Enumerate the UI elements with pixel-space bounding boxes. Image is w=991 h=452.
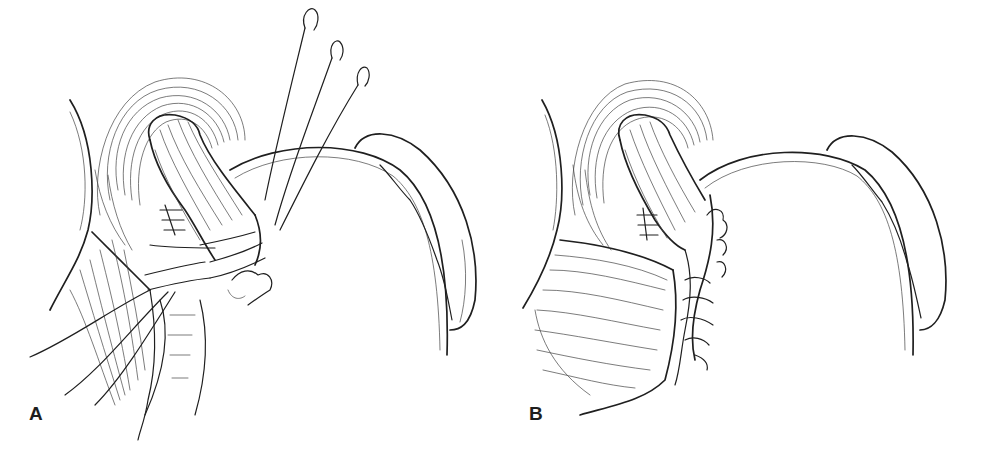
- surgical-illustration-b: [495, 0, 991, 452]
- panel-label-a: A: [29, 403, 43, 425]
- panel-a: A: [0, 0, 495, 452]
- panel-label-b: B: [529, 403, 543, 425]
- surgical-illustration-a: [0, 0, 495, 452]
- panel-b: B: [495, 0, 991, 452]
